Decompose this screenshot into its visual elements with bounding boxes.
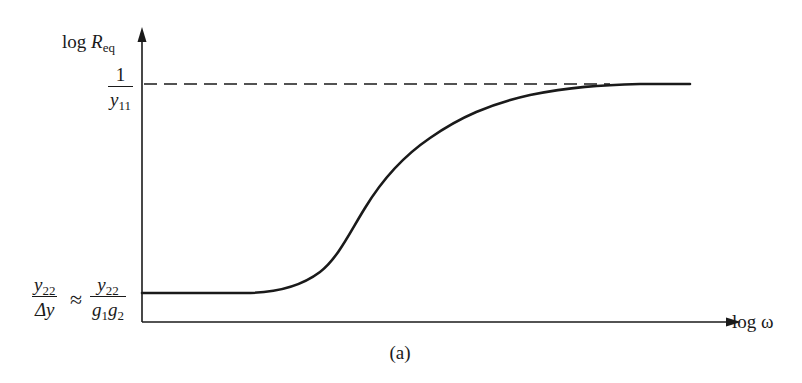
response-curve [142, 84, 690, 293]
lower-right-denominator-g2: g [108, 299, 118, 320]
lower-level-right-fraction: y22 g1g2 [90, 275, 126, 319]
y-axis-arrow-icon [138, 27, 147, 42]
lower-right-denominator-g1-sub: 1 [102, 308, 109, 323]
lower-right-denominator-g2-sub: 2 [118, 308, 125, 323]
y-axis-label: log Req [62, 32, 115, 51]
upper-level-label: 1 y11 [108, 65, 133, 109]
upper-level-numerator: 1 [114, 65, 128, 86]
lower-right-numerator-var: y [97, 274, 105, 295]
x-axis-label: log ω [732, 312, 774, 331]
plot-canvas [0, 0, 802, 383]
y-axis-label-var: R [91, 31, 103, 52]
lower-left-denominator: Δy [33, 297, 57, 319]
lower-level-left-fraction: y22 Δy [32, 275, 57, 319]
upper-level-denominator-sub: 11 [118, 98, 131, 113]
y-axis-label-prefix: log [62, 31, 91, 52]
y-axis-label-sub: eq [103, 40, 115, 55]
lower-right-numerator-sub: 22 [106, 283, 119, 298]
figure-caption: (a) [389, 343, 410, 362]
lower-right-denominator-g1: g [92, 299, 102, 320]
lower-left-numerator-sub: 22 [42, 283, 55, 298]
approx-symbol: ≈ [70, 289, 82, 311]
